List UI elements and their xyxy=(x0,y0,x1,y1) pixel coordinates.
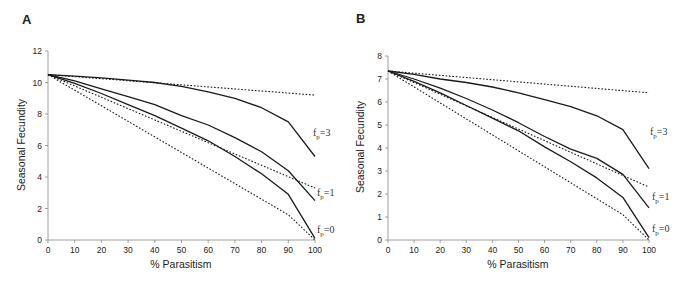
panel-a-series xyxy=(48,75,315,240)
solid-curve xyxy=(48,75,315,239)
figure: A Seasonal Fecundity % Parasitism 024681… xyxy=(0,0,683,286)
panel-b-y-axis-title: Seasonal Fecundity xyxy=(354,100,366,193)
solid-curve xyxy=(388,71,649,238)
x-tick-label: 60 xyxy=(203,245,213,255)
y-tick-label: 10 xyxy=(33,78,43,88)
x-tick-label: 30 xyxy=(123,245,133,255)
panel-b-label: B xyxy=(356,11,365,26)
x-tick-label: 20 xyxy=(97,245,107,255)
y-tick-label: 0 xyxy=(37,235,42,245)
y-tick-label: 4 xyxy=(377,143,382,153)
solid-curve xyxy=(388,71,649,169)
panel-b-x-axis-title: % Parasitism xyxy=(487,258,549,270)
y-tick-label: 12 xyxy=(33,46,43,56)
dotted-curve xyxy=(388,71,649,187)
x-tick-label: 100 xyxy=(308,245,322,255)
panel-b-curve-labels: fp=3fp=1fp=0 xyxy=(650,126,669,237)
x-tick-label: 90 xyxy=(284,245,294,255)
x-tick-label: 10 xyxy=(409,245,419,255)
y-tick-label: 4 xyxy=(37,172,42,182)
panel-b-series xyxy=(388,71,649,240)
y-tick-label: 7 xyxy=(377,74,382,84)
panel-b-chart: B Seasonal Fecundity % Parasitism 012345… xyxy=(354,11,669,270)
x-tick-label: 80 xyxy=(257,245,267,255)
y-tick-label: 3 xyxy=(377,166,382,176)
panel-a-curve-labels: fp=3fp=1fp=0 xyxy=(313,127,334,238)
x-tick-label: 60 xyxy=(540,245,550,255)
x-tick-label: 50 xyxy=(177,245,187,255)
x-tick-label: 30 xyxy=(462,245,472,255)
dotted-curve xyxy=(388,71,649,93)
x-tick-label: 70 xyxy=(566,245,576,255)
solid-curve xyxy=(48,75,315,201)
dotted-curve xyxy=(48,75,315,240)
dotted-curve xyxy=(48,75,315,188)
x-tick-label: 20 xyxy=(435,245,445,255)
y-tick-label: 8 xyxy=(377,51,382,61)
y-tick-label: 1 xyxy=(377,212,382,222)
y-tick-label: 8 xyxy=(37,109,42,119)
curve-label: fp=0 xyxy=(317,224,334,238)
x-tick-label: 0 xyxy=(46,245,51,255)
panel-a-x-axis-title: % Parasitism xyxy=(150,258,212,270)
x-tick-label: 40 xyxy=(488,245,498,255)
y-tick-label: 2 xyxy=(377,189,382,199)
x-tick-label: 0 xyxy=(386,245,391,255)
x-tick-label: 100 xyxy=(642,245,656,255)
x-tick-label: 50 xyxy=(514,245,524,255)
panel-a-y-axis-title: Seasonal Fecundity xyxy=(15,98,27,191)
panel-a-label: A xyxy=(22,12,32,27)
curve-label: fp=1 xyxy=(317,187,334,201)
x-tick-label: 90 xyxy=(618,245,628,255)
x-tick-label: 10 xyxy=(70,245,80,255)
y-tick-label: 6 xyxy=(377,97,382,107)
y-tick-label: 2 xyxy=(37,204,42,214)
x-tick-label: 70 xyxy=(230,245,240,255)
dotted-curve xyxy=(388,71,649,240)
curve-label: fp=3 xyxy=(650,126,667,140)
curve-label: fp=0 xyxy=(652,223,669,237)
y-tick-label: 5 xyxy=(377,120,382,130)
y-tick-label: 0 xyxy=(377,235,382,245)
curve-label: fp=1 xyxy=(652,191,669,205)
x-tick-label: 80 xyxy=(592,245,602,255)
panel-a-chart: A Seasonal Fecundity % Parasitism 024681… xyxy=(15,12,334,270)
curve-label: fp=3 xyxy=(313,127,330,141)
y-tick-label: 6 xyxy=(37,141,42,151)
x-tick-label: 40 xyxy=(150,245,160,255)
